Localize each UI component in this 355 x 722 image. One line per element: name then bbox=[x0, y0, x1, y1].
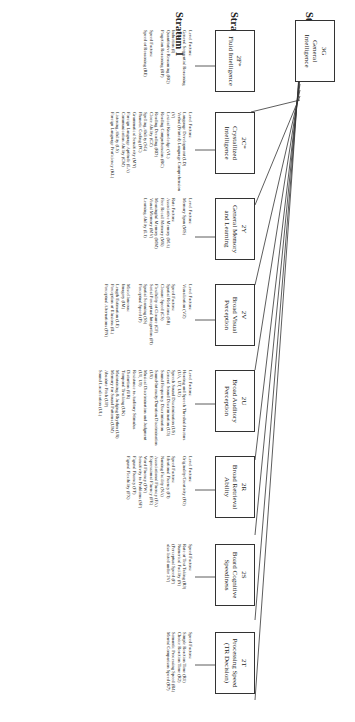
factors-retrieval: Level Factors: Originality/Creativity (F… bbox=[126, 456, 193, 532]
general-code: 3G bbox=[319, 47, 328, 56]
broad-box-auditory: 2U Broad Auditory Perception bbox=[215, 370, 255, 432]
general-intelligence-box: 3G General Intelligence bbox=[295, 20, 335, 82]
broad-name: Broad Retrieval Ability bbox=[222, 459, 239, 515]
broad-code: 2F* bbox=[235, 56, 244, 67]
broad-box-fluid: 2F* Fluid Intelligence bbox=[215, 30, 255, 92]
broad-code: 2V bbox=[239, 311, 248, 320]
factors-fluid: Level Factors: General Sequential Reason… bbox=[143, 30, 193, 94]
factors-visual: Level Factors: Visualization (VZ) Speed … bbox=[104, 284, 194, 358]
broad-code: 2U bbox=[239, 397, 248, 406]
broad-box-memory: 2Y General Memory and Learning bbox=[215, 198, 255, 260]
broad-box-cognitive-speediness: 2S Board Cognitive Speediness bbox=[215, 544, 255, 606]
broad-box-crystallized: 2C* Crystallized Intelligence bbox=[215, 112, 255, 174]
broad-code: 2T bbox=[239, 659, 248, 667]
broad-name: Fluid Intelligence bbox=[227, 36, 236, 86]
factors-auditory: Level Factors: Hearing and Speech Thresh… bbox=[98, 370, 193, 446]
factors-processing-speed: Speed Factors: Simple Reaction Time (R1)… bbox=[165, 632, 193, 708]
broad-name: General Memory and Learning bbox=[222, 201, 239, 257]
general-name: General Intelligence bbox=[302, 23, 319, 79]
broad-name: Crystallized Intelligence bbox=[222, 115, 239, 171]
broad-name: Processing Speed (TR Decision) bbox=[222, 635, 239, 691]
factors-crystallized: Level Factors: Language Development (LD)… bbox=[109, 112, 193, 192]
broad-box-processing-speed: 2T Processing Speed (TR Decision) bbox=[215, 632, 255, 694]
cattell-horn-carroll-diagram: Stratum III Stratum II Stratum I 3G Gene… bbox=[0, 0, 355, 722]
broad-box-visual: 2V Broad Visual Perception bbox=[215, 284, 255, 346]
broad-code: 2C* bbox=[239, 137, 248, 149]
broad-name: Broad Auditory Perception bbox=[222, 373, 239, 429]
broad-name: Board Cognitive Speediness bbox=[222, 547, 239, 603]
factors-cognitive-speediness: Speed Factors: Rate of Test Taking (R9) … bbox=[165, 544, 193, 618]
broad-code: 2Y bbox=[239, 225, 248, 234]
broad-code: 2R bbox=[239, 483, 248, 491]
broad-name: Broad Visual Perception bbox=[222, 287, 239, 343]
factors-memory: Level Factors: Memory Span (MS) Rate Fac… bbox=[143, 198, 193, 262]
broad-box-retrieval: 2R Broad Retrieval Ability bbox=[215, 456, 255, 518]
broad-code: 2S bbox=[239, 571, 248, 578]
